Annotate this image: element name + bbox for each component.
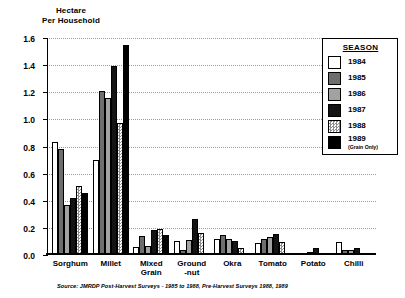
x-axis-label: Millet bbox=[91, 258, 132, 280]
y-axis-tick-label: 1.4 bbox=[23, 61, 35, 71]
y-axis-tick-label: 0.0 bbox=[23, 251, 35, 261]
legend-label: 1984 bbox=[348, 58, 366, 67]
legend-item: 1984 bbox=[328, 56, 393, 69]
legend-item: 1988 bbox=[328, 120, 393, 133]
legend-item: 1985 bbox=[328, 72, 393, 85]
legend-sublabel: (Grain Only) bbox=[348, 144, 378, 150]
bar-group bbox=[50, 38, 91, 255]
x-axis-label: Potato bbox=[293, 258, 334, 280]
x-axis-label: Okra bbox=[212, 258, 253, 280]
legend-swatch bbox=[328, 136, 341, 149]
legend-label: 1987 bbox=[348, 106, 366, 115]
x-axis-labels: SorghumMilletMixed GrainGround -nutOkraT… bbox=[47, 258, 376, 280]
x-axis-label: Tomato bbox=[253, 258, 294, 280]
bar bbox=[123, 45, 129, 255]
y-axis-tick-label: 1.2 bbox=[23, 88, 35, 98]
source-footnote: Source: JMRDP Post-Harvest Surveys - 198… bbox=[57, 283, 288, 289]
y-axis-tick-label: 1.6 bbox=[23, 34, 35, 44]
x-axis-label: Chilli bbox=[334, 258, 375, 280]
legend-swatch bbox=[328, 120, 341, 133]
bar-group bbox=[91, 38, 132, 255]
legend-swatch bbox=[328, 88, 341, 101]
y-axis-title-line1: Hectare bbox=[56, 6, 86, 15]
legend-item: 1986 bbox=[328, 88, 393, 101]
bar-group bbox=[172, 38, 213, 255]
legend-swatch bbox=[328, 56, 341, 69]
legend-swatch bbox=[328, 72, 341, 85]
y-axis-tick: 0.0 bbox=[43, 255, 48, 256]
legend-item: 1987 bbox=[328, 104, 393, 117]
bar-group bbox=[253, 38, 294, 255]
y-axis-tick-label: 1.0 bbox=[23, 115, 35, 125]
legend-label: 1989(Grain Only) bbox=[348, 135, 378, 150]
bar-group bbox=[212, 38, 253, 255]
y-axis-tick-label: 0.6 bbox=[23, 170, 35, 180]
y-axis-title-line2: Per Household bbox=[42, 16, 100, 25]
y-axis-title: Hectare Per Household bbox=[16, 6, 126, 25]
legend-item: 1989(Grain Only) bbox=[328, 136, 393, 149]
legend-items: 198419851986198719881989(Grain Only) bbox=[328, 56, 393, 149]
x-axis-label: Sorghum bbox=[50, 258, 91, 280]
bar bbox=[82, 193, 88, 255]
x-axis-label: Ground -nut bbox=[172, 258, 213, 280]
y-axis-tick-label: 0.2 bbox=[23, 224, 35, 234]
bar bbox=[198, 233, 204, 255]
bar-chart: Hectare Per Household 0.00.20.40.60.81.0… bbox=[0, 0, 405, 298]
x-axis-line bbox=[46, 253, 376, 255]
legend-label: 1985 bbox=[348, 74, 366, 83]
bar-group bbox=[131, 38, 172, 255]
y-axis-tick-label: 0.8 bbox=[23, 143, 35, 153]
legend-title: SEASON bbox=[328, 43, 393, 52]
legend-label: 1986 bbox=[348, 90, 366, 99]
legend-swatch bbox=[328, 104, 341, 117]
x-axis-label: Mixed Grain bbox=[131, 258, 172, 280]
legend-label: 1988 bbox=[348, 122, 366, 131]
legend: SEASON 198419851986198719881989(Grain On… bbox=[322, 38, 398, 155]
y-axis-tick-label: 0.4 bbox=[23, 197, 35, 207]
